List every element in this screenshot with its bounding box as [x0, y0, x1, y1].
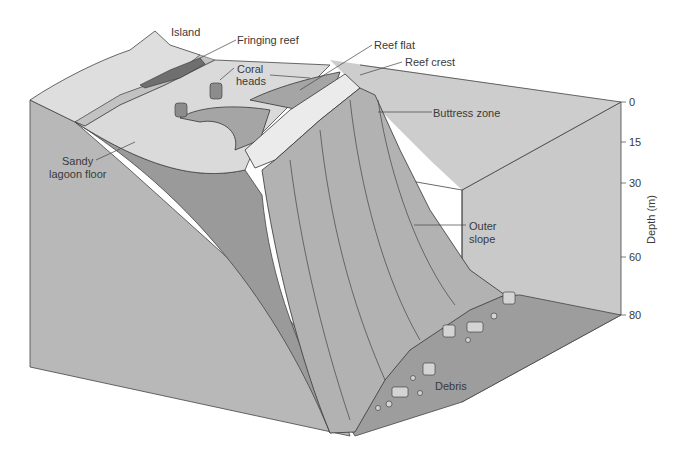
depth-axis-title: Depth (m)	[645, 195, 657, 244]
reef-block-diagram	[0, 0, 679, 467]
depth-tick-0: 0	[629, 96, 635, 108]
depth-tick-15: 15	[629, 136, 641, 148]
label-outer-slope-2: slope	[469, 233, 495, 245]
label-fringing-reef: Fringing reef	[237, 34, 299, 46]
label-debris: Debris	[435, 380, 467, 392]
label-buttress-zone: Buttress zone	[433, 107, 500, 119]
label-outer-slope-1: Outer	[469, 220, 497, 232]
label-reef-crest: Reef crest	[405, 56, 455, 68]
depth-tick-60: 60	[629, 251, 641, 263]
label-coral-heads-1: Coral	[237, 63, 263, 75]
label-sandy-lagoon-2: lagoon floor	[49, 168, 107, 180]
label-island: Island	[171, 26, 200, 38]
label-coral-heads-2: heads	[236, 75, 266, 87]
label-sandy-lagoon-1: Sandy	[62, 155, 93, 167]
label-reef-flat: Reef flat	[374, 39, 415, 51]
depth-tick-30: 30	[629, 177, 641, 189]
depth-tick-80: 80	[629, 309, 641, 321]
